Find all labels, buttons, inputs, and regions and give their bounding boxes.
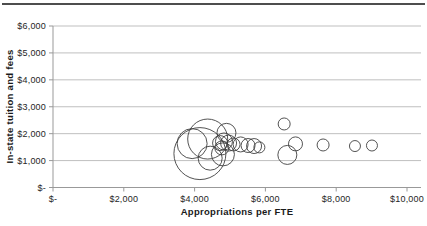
y-tick-label: $5,000 <box>17 48 46 58</box>
y-axis-title: In-state tuition and fees <box>4 27 17 187</box>
bubble <box>288 137 302 151</box>
y-tick-label: $4,000 <box>17 75 46 85</box>
x-tick-label: $10,000 <box>390 194 424 204</box>
bubble <box>278 118 290 130</box>
bubble <box>349 141 360 152</box>
bubble <box>278 145 297 164</box>
y-tick-label: $1,000 <box>17 156 46 166</box>
y-tick-label: $- <box>38 183 46 193</box>
bubble <box>366 140 377 151</box>
y-tick-label: $6,000 <box>17 21 46 31</box>
x-tick-label: $- <box>49 194 57 204</box>
y-tick-label: $2,000 <box>17 129 46 139</box>
x-tick-label: $6,000 <box>251 194 280 204</box>
x-tick-label: $4,000 <box>180 194 209 204</box>
y-tick-label: $3,000 <box>17 102 46 112</box>
plot-area: $-$1,000$2,000$3,000$4,000$5,000$6,000$-… <box>0 0 427 226</box>
x-tick-label: $2,000 <box>109 194 138 204</box>
bubble <box>177 129 207 159</box>
x-tick-label: $8,000 <box>322 194 351 204</box>
bubble <box>317 139 329 151</box>
x-axis-title: Appropriations per FTE <box>53 206 421 220</box>
bubble-chart: $-$1,000$2,000$3,000$4,000$5,000$6,000$-… <box>0 0 427 226</box>
